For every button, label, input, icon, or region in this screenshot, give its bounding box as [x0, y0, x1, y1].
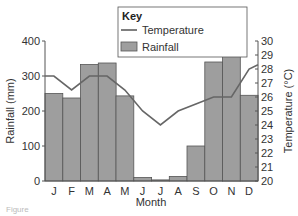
x-axis-title: Month	[136, 196, 167, 208]
right-tick-label: 26	[261, 91, 273, 103]
climate-chart: JFMAMJJASOND 0100200300400 2021222324252…	[0, 0, 298, 216]
x-tick-label: F	[68, 185, 75, 197]
x-tick-label: N	[227, 185, 235, 197]
rainfall-bar	[223, 53, 241, 181]
x-tick-label: J	[51, 185, 57, 197]
right-tick-label: 29	[261, 49, 273, 61]
left-tick-label: 400	[22, 35, 40, 47]
legend-rainfall-label: Rainfall	[142, 41, 179, 53]
rainfall-bar	[169, 176, 187, 181]
figure-caption: Figure	[6, 205, 29, 214]
x-tick-label: M	[85, 185, 94, 197]
rainfall-bar	[45, 94, 63, 182]
right-tick-label: 23	[261, 133, 273, 145]
right-tick-label: 27	[261, 77, 273, 89]
left-tick-label: 100	[22, 140, 40, 152]
rainfall-bar	[240, 95, 258, 181]
left-tick-label: 300	[22, 70, 40, 82]
left-tick-label: 0	[34, 175, 40, 187]
left-axis-tick-labels: 0100200300400	[22, 35, 40, 187]
x-tick-label: S	[192, 185, 199, 197]
rainfall-bar	[134, 178, 152, 182]
rainfall-bar	[63, 98, 81, 181]
right-tick-label: 20	[261, 175, 273, 187]
legend-title: Key	[122, 10, 143, 22]
rainfall-bar	[81, 65, 99, 182]
rainfall-bar	[116, 96, 134, 181]
legend-rainfall-swatch	[121, 42, 137, 51]
right-tick-label: 22	[261, 147, 273, 159]
right-tick-label: 21	[261, 161, 273, 173]
legend-temperature-label: Temperature	[142, 24, 204, 36]
right-tick-label: 28	[261, 63, 273, 75]
x-tick-label: M	[120, 185, 129, 197]
legend: Key Temperature Rainfall	[118, 7, 247, 57]
x-tick-label: A	[103, 185, 111, 197]
right-axis-title: Temperature (°C)	[282, 69, 294, 153]
left-axis-title: Rainfall (mm)	[4, 78, 16, 143]
right-tick-label: 30	[261, 35, 273, 47]
x-tick-label: A	[174, 185, 182, 197]
rainfall-bar	[205, 62, 223, 181]
right-axis-tick-labels: 2021222324252627282930	[261, 35, 273, 187]
right-tick-label: 24	[261, 119, 273, 131]
x-tick-label: O	[209, 185, 218, 197]
x-tick-label: D	[245, 185, 253, 197]
right-tick-label: 25	[261, 105, 273, 117]
left-tick-label: 200	[22, 105, 40, 117]
rainfall-bar	[187, 146, 205, 181]
